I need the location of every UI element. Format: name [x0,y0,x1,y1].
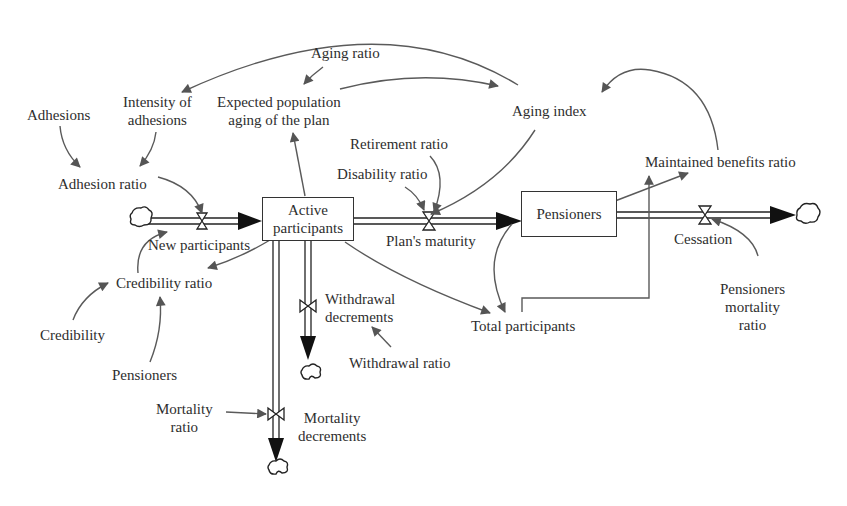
flow-label-mortality-decrements: Mortality decrements [298,409,366,445]
stock-flow-diagram [0,0,847,506]
var-pensioners: Pensioners [112,366,177,384]
var-mortality-ratio: Mortality ratio [156,400,213,436]
new-participants-valve-icon [197,213,207,229]
mortality-sink-cloud-icon [268,459,288,474]
label-line2: adhesions [123,111,192,129]
label-line2: mortality [720,298,785,316]
var-disability-ratio: Disability ratio [337,165,427,183]
sink-cloud-icon [797,204,821,224]
label-line2: ratio [156,418,213,436]
stock-pensioners[interactable]: Pensioners [521,191,617,237]
flow-label-cessation: Cessation [674,230,732,248]
plans-maturity-valve-icon [423,212,435,230]
flow-label-plans-maturity: Plan's maturity [386,232,476,250]
var-maintained-benefits-ratio: Maintained benefits ratio [645,153,796,171]
label-line2: decrements [298,427,366,445]
var-withdrawal-ratio: Withdrawal ratio [349,354,450,372]
label-line2: decrements [325,308,395,326]
var-total-participants: Total participants [471,317,575,335]
label-line1: Pensioners [720,280,785,298]
cessation-valve-icon [699,206,711,224]
var-credibility: Credibility [40,326,105,344]
label-line2: aging of the plan [217,111,341,129]
mortality-valve-icon [268,408,284,420]
flow-label-withdrawal-decrements: Withdrawal decrements [325,290,395,326]
var-aging-ratio: Aging ratio [311,44,380,62]
label-line1: Mortality [156,400,213,418]
var-intensity-of-adhesions: Intensity of adhesions [123,93,192,129]
var-credibility-ratio: Credibility ratio [116,274,212,292]
source-cloud-icon [130,207,152,227]
var-retirement-ratio: Retirement ratio [350,135,448,153]
label-line3: ratio [720,316,785,334]
label-line1: Expected population [217,93,341,111]
var-pensioners-mortality-ratio: Pensioners mortality ratio [720,280,785,334]
var-aging-index: Aging index [512,102,587,120]
stock-label-line2: participants [273,219,343,237]
flow-label-new-participants: New participants [148,236,250,254]
var-adhesions: Adhesions [27,106,90,124]
label-line1: Withdrawal [325,290,395,308]
stock-label-line1: Active [288,201,328,219]
withdrawal-valve-icon [300,300,316,312]
withdrawal-sink-cloud-icon [301,364,321,379]
stock-label: Pensioners [537,205,602,223]
label-line1: Mortality [298,409,366,427]
var-adhesion-ratio: Adhesion ratio [58,175,147,193]
var-expected-population-aging: Expected population aging of the plan [217,93,341,129]
stock-active-participants[interactable]: Active participants [262,197,354,241]
label-line1: Intensity of [123,93,192,111]
